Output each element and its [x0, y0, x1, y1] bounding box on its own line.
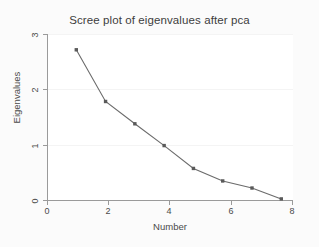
x-tick-mark-8 [292, 201, 293, 205]
x-tick-label-0: 0 [39, 206, 55, 216]
y-tick-mark-3 [43, 34, 47, 35]
y-tick-label-3: 3 [30, 29, 40, 41]
x-tick-mark-4 [169, 201, 170, 205]
y-tick-mark-1 [43, 145, 47, 146]
x-tick-mark-2 [108, 201, 109, 205]
x-tick-label-8: 8 [284, 206, 300, 216]
y-axis-title: Eigenvalues [11, 58, 22, 138]
y-axis-line [47, 34, 48, 201]
gridline-y-1 [47, 145, 293, 146]
x-tick-label-6: 6 [223, 206, 239, 216]
y-tick-mark-2 [43, 89, 47, 90]
x-axis-line [47, 200, 293, 201]
x-axis-title: Number [47, 221, 293, 232]
scree-plot-screenshot: Scree plot of eigenvalues after pca 3 2 … [0, 0, 319, 247]
x-tick-mark-6 [231, 201, 232, 205]
gridline-y-3 [47, 34, 293, 35]
x-tick-mark-0 [47, 201, 48, 205]
x-tick-label-2: 2 [100, 206, 116, 216]
y-tick-label-2: 2 [30, 84, 40, 96]
chart-title: Scree plot of eigenvalues after pca [0, 14, 319, 26]
gridline-y-2 [47, 89, 293, 90]
y-tick-label-1: 1 [30, 140, 40, 152]
plot-area [47, 34, 293, 200]
graph-region: Scree plot of eigenvalues after pca 3 2 … [0, 0, 319, 247]
x-tick-label-4: 4 [161, 206, 177, 216]
